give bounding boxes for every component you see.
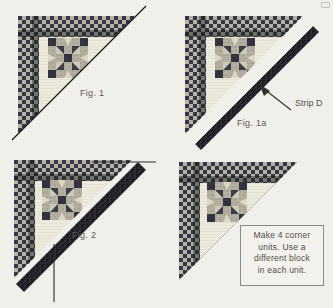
note-line-1: Make 4 corner (244, 230, 320, 242)
fig-1a-illustration (185, 16, 327, 152)
panel-fig-1a: Strip D Fig. 1a (167, 0, 333, 154)
strip-d-arrow (257, 84, 299, 114)
note-line-3: different block (244, 253, 320, 265)
fig-2-caption: Fig. 2 (72, 230, 96, 240)
panel-fig-3: Make 4 corner units. Use a different blo… (167, 154, 333, 308)
fig-1-illustration (18, 16, 153, 148)
scan-edge-mark (321, 2, 330, 8)
diagram-page: Fig. 1 (0, 0, 333, 308)
note-line-4: in each unit. (244, 265, 320, 277)
fig-1-caption: Fig. 1 (80, 88, 104, 98)
panel-fig-1: Fig. 1 (0, 0, 167, 154)
panel-fig-2: Fig. 2 (0, 154, 167, 308)
note-line-2: units. Use a (244, 242, 320, 254)
instruction-note: Make 4 corner units. Use a different blo… (240, 225, 324, 286)
strip-d-label: Strip D (295, 98, 323, 108)
fig-1a-caption: Fig. 1a (237, 118, 267, 128)
